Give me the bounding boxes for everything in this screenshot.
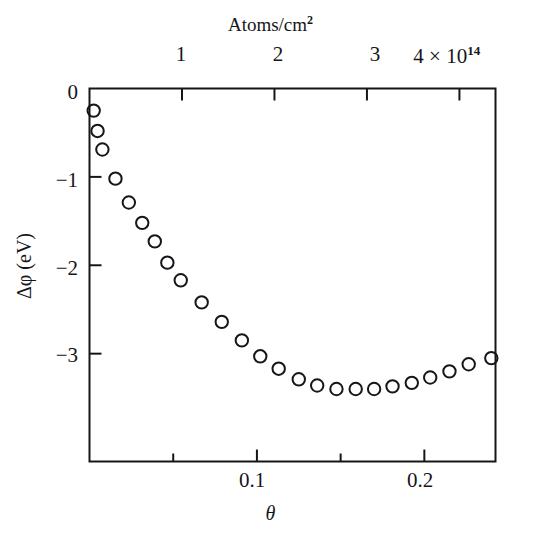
data-point [368, 383, 380, 395]
data-point [195, 296, 207, 308]
data-point [236, 334, 248, 346]
data-point [386, 380, 398, 392]
data-point [443, 365, 455, 377]
data-point [463, 358, 475, 370]
data-point [424, 371, 436, 383]
data-point [136, 217, 148, 229]
data-point [406, 377, 418, 389]
data-point [216, 316, 228, 328]
data-point [109, 172, 121, 184]
tick-marks [90, 89, 460, 462]
data-point [149, 235, 161, 247]
data-point [272, 362, 284, 374]
data-point [293, 373, 305, 385]
plot-frame [90, 89, 496, 462]
chart-figure: Atoms/cm2 1 2 3 4 × 1014 0 −1 −2 −3 Δφ (… [0, 0, 541, 533]
data-point [123, 196, 135, 208]
data-point [175, 274, 187, 286]
data-point [311, 379, 323, 391]
data-point-markers [87, 104, 497, 395]
plot-canvas [0, 0, 541, 533]
data-point [350, 383, 362, 395]
data-point [254, 350, 266, 362]
data-point [91, 125, 103, 137]
data-point [96, 143, 108, 155]
data-point [161, 256, 173, 268]
data-point [330, 383, 342, 395]
